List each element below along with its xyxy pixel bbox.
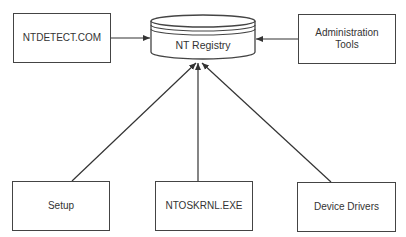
node-ntdetect-label: NTDETECT.COM — [23, 32, 101, 45]
node-ntdetect: NTDETECT.COM — [13, 13, 111, 63]
node-admin-tools: Administration Tools — [298, 14, 396, 64]
edge-drivers-registry — [202, 63, 331, 182]
node-setup: Setup — [12, 181, 110, 231]
node-ntoskrnl: NTOSKRNL.EXE — [155, 181, 253, 231]
node-device-drivers: Device Drivers — [297, 182, 396, 232]
edge-setup-registry — [72, 63, 196, 181]
registry-cylinder — [151, 15, 255, 59]
node-admin-tools-label: Administration Tools — [315, 27, 378, 52]
node-setup-label: Setup — [48, 200, 74, 213]
node-device-drivers-label: Device Drivers — [314, 201, 379, 214]
node-ntoskrnl-label: NTOSKRNL.EXE — [165, 200, 242, 213]
registry-label: NT Registry — [151, 39, 255, 51]
